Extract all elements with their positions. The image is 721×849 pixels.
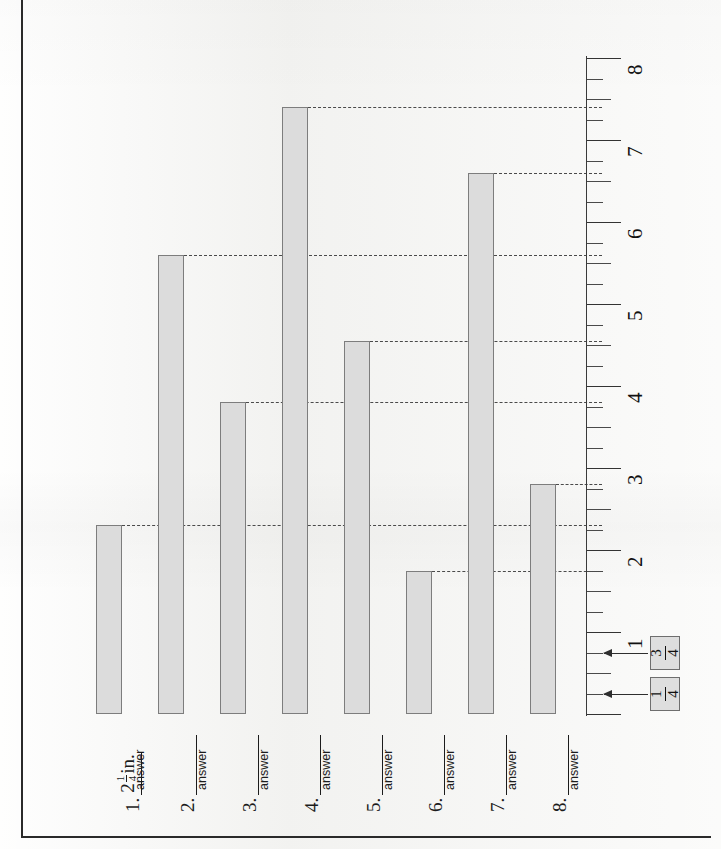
item-number-6: 6. [426, 798, 445, 812]
callout-box-one-quarter: 14 [650, 677, 680, 711]
ruler-tick-0 [587, 714, 621, 715]
leader-line-4 [308, 107, 602, 108]
ruler-tick-1 [587, 632, 621, 633]
ruler-tick-1-25 [587, 612, 603, 613]
ruler-tick-6-75 [587, 161, 603, 162]
answer-caption-1: answer [133, 750, 147, 790]
bar-4 [282, 107, 308, 714]
item-number-2: 2. [178, 798, 197, 812]
ruler-number-5: 5 [623, 311, 648, 322]
bar-3 [220, 402, 246, 714]
callout-numerator-three-quarters: 3 [649, 646, 665, 660]
item-number-5: 5. [364, 798, 383, 812]
ruler-tick-7-25 [587, 120, 603, 121]
bar-1 [96, 525, 122, 714]
ruler-number-4: 4 [623, 393, 648, 404]
item-number-7: 7. [488, 798, 507, 812]
ruler-tick-4-5 [587, 345, 611, 346]
ruler-tick-2 [587, 550, 621, 551]
callout-numerator-one-quarter: 1 [649, 687, 665, 701]
ruler-tick-3-5 [587, 427, 611, 428]
ruler-tick-3-25 [587, 448, 603, 449]
answer-caption-7: answer [505, 750, 519, 790]
callout-arrow-three-quarters [604, 653, 648, 654]
ruler-tick-4-75 [587, 325, 603, 326]
answer-caption-3: answer [257, 750, 271, 790]
ruler-number-2: 2 [623, 557, 648, 568]
ruler-tick-2-25 [587, 530, 603, 531]
ruler-tick-8 [587, 58, 621, 59]
ruler-tick-5-25 [587, 284, 603, 285]
answer-caption-5: answer [381, 750, 395, 790]
ruler-tick-1-5 [587, 591, 611, 592]
answer-caption-6: answer [443, 750, 457, 790]
ruler-number-6: 6 [623, 229, 648, 240]
leader-line-6 [432, 571, 602, 572]
item-number-1: 1. [123, 798, 142, 812]
item-number-4: 4. [302, 798, 321, 812]
leader-line-2 [184, 255, 602, 256]
ruler-tick-7 [587, 140, 621, 141]
ruler-tick-6-25 [587, 202, 603, 203]
answer-caption-4: answer [319, 750, 333, 790]
ruler-tick-1-75 [587, 571, 603, 572]
ruler-tick-0-5 [587, 673, 611, 674]
ruler-tick-7-5 [587, 99, 611, 100]
ruler-tick-3 [587, 468, 621, 469]
bar-6 [406, 571, 432, 715]
answer-caption-8: answer [567, 750, 581, 790]
item-number-3: 3. [240, 798, 259, 812]
ruler-tick-5 [587, 304, 621, 305]
callout-box-three-quarters: 34 [650, 636, 680, 670]
ruler-number-7: 7 [623, 147, 648, 158]
answer-caption-2: answer [195, 750, 209, 790]
ruler-number-3: 3 [623, 475, 648, 486]
ruler-number-1: 1 [623, 639, 648, 650]
callout-denominator-three-quarters: 4 [665, 646, 682, 660]
ruler-tick-3-75 [587, 407, 603, 408]
ruler-tick-4 [587, 386, 621, 387]
ruler-tick-6-5 [587, 181, 611, 182]
item-number-8: 8. [550, 798, 569, 812]
ruler-tick-5-5 [587, 263, 611, 264]
bar-8 [530, 484, 556, 714]
ruler-tick-0-25 [587, 694, 603, 695]
callout-denominator-one-quarter: 4 [665, 687, 682, 701]
ruler-tick-2-5 [587, 509, 611, 510]
ruler-tick-4-25 [587, 366, 603, 367]
ruler-tick-6 [587, 222, 621, 223]
bar-5 [344, 341, 370, 714]
callout-arrow-one-quarter [604, 694, 648, 695]
bar-2 [158, 255, 184, 714]
bar-7 [468, 173, 494, 714]
ruler-axis: 12345678 [586, 56, 620, 716]
ruler-tick-2-75 [587, 489, 603, 490]
ruler-tick-5-75 [587, 243, 603, 244]
ruler-number-8: 8 [623, 65, 648, 76]
ruler-tick-0-75 [587, 653, 603, 654]
ruler-tick-7-75 [587, 79, 603, 80]
